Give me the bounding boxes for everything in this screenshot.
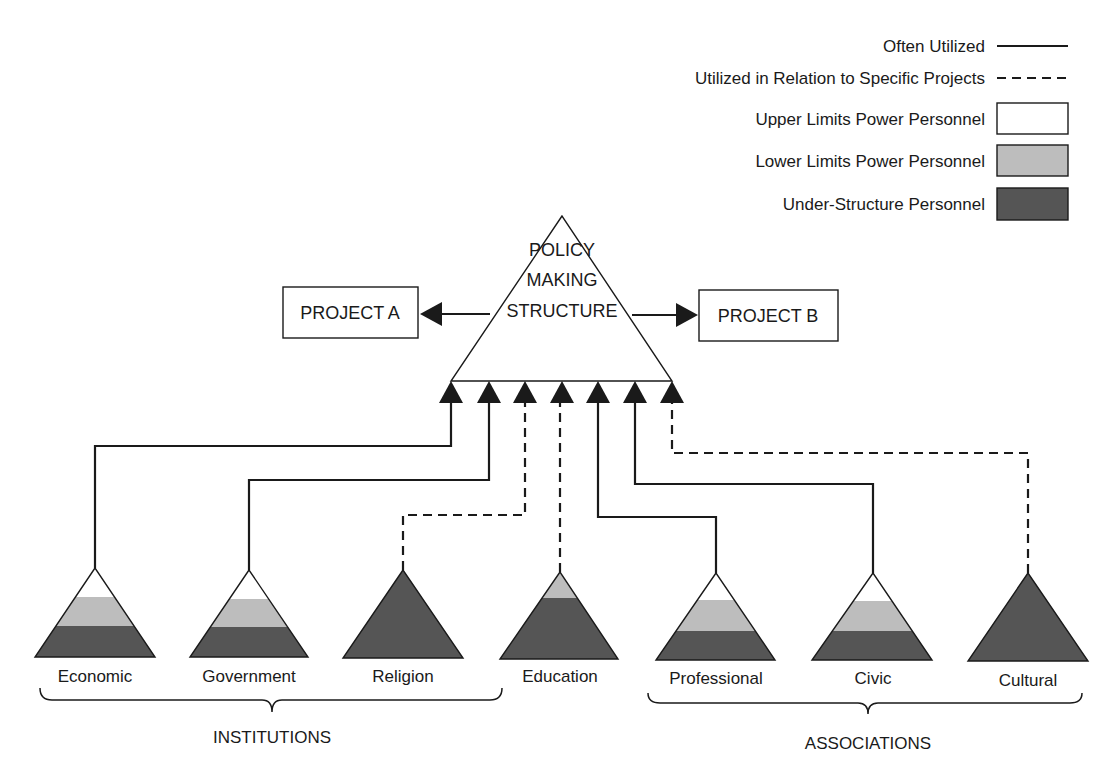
under-structure-layer (962, 560, 1094, 670)
legend-label: Often Utilized (883, 37, 985, 56)
under-structure-layer (806, 631, 938, 669)
connector-professional (598, 398, 716, 573)
arrow-up-icon (586, 381, 610, 403)
project-a-label: PROJECT A (300, 303, 400, 323)
node-cultural: Cultural (962, 560, 1094, 690)
connector-religion (403, 398, 525, 570)
under-structure-layer (338, 560, 468, 668)
brace-institutions (40, 688, 502, 712)
policy-label-line1: POLICY (529, 240, 595, 260)
legend-item-lower-limits: Lower Limits Power Personnel (755, 145, 1068, 176)
legend-label: Utilized in Relation to Specific Project… (695, 69, 985, 88)
policy-label-line3: STRUCTURE (507, 301, 618, 321)
under-structure-swatch (997, 188, 1068, 220)
node-economic: Economic (30, 560, 160, 686)
legend-item-specific-projects: Utilized in Relation to Specific Project… (695, 69, 1068, 88)
lower-limits-layer (650, 600, 780, 631)
under-structure-layer (495, 598, 625, 668)
arrow-left-icon (420, 302, 442, 326)
project-b: PROJECT B (632, 290, 838, 341)
node-label: Government (202, 667, 296, 686)
node-education: Education (495, 560, 625, 686)
group-label-institutions: INSTITUTIONS (213, 728, 331, 747)
node-label: Civic (855, 669, 892, 688)
node-religion: Religion (338, 560, 468, 686)
arrow-right-icon (676, 303, 698, 327)
legend-item-often-utilized: Often Utilized (883, 37, 1068, 56)
legend-item-upper-limits: Upper Limits Power Personnel (755, 103, 1068, 134)
arrow-up-icon (477, 381, 501, 403)
lower-limits-swatch (997, 145, 1068, 176)
legend: Often Utilized Utilized in Relation to S… (695, 37, 1068, 220)
node-government: Government (185, 560, 315, 686)
connector-civic (635, 398, 873, 573)
node-label: Education (522, 667, 598, 686)
policy-making-structure: POLICY MAKING STRUCTURE (451, 216, 672, 381)
brace-associations (648, 693, 1082, 714)
project-a: PROJECT A (283, 287, 490, 338)
power-structure-diagram: Often Utilized Utilized in Relation to S… (0, 0, 1115, 767)
node-label: Economic (58, 667, 133, 686)
under-structure-layer (30, 626, 160, 666)
arrow-up-icon (660, 381, 684, 403)
lower-limits-layer (185, 599, 315, 627)
legend-label: Under-Structure Personnel (783, 195, 985, 214)
node-label: Professional (669, 669, 763, 688)
arrow-up-icon (513, 381, 537, 403)
node-civic: Civic (806, 560, 938, 688)
node-label: Cultural (999, 671, 1058, 690)
lower-limits-layer (30, 597, 160, 626)
connectors (95, 381, 1028, 573)
arrow-up-icon (439, 381, 463, 403)
project-b-label: PROJECT B (718, 306, 819, 326)
arrow-up-icon (550, 381, 574, 403)
policy-label-line2: MAKING (526, 270, 597, 290)
group-label-associations: ASSOCIATIONS (805, 734, 931, 753)
group-associations: ASSOCIATIONS (648, 693, 1082, 753)
connector-government (249, 398, 489, 570)
lower-limits-layer (806, 601, 938, 631)
under-structure-layer (185, 627, 315, 667)
group-institutions: INSTITUTIONS (40, 688, 502, 747)
connector-cultural (672, 398, 1028, 573)
legend-item-under-structure: Under-Structure Personnel (783, 188, 1068, 220)
legend-label: Upper Limits Power Personnel (755, 110, 985, 129)
node-label: Religion (372, 667, 433, 686)
connector-economic (95, 398, 451, 568)
legend-label: Lower Limits Power Personnel (755, 152, 985, 171)
upper-limits-swatch (997, 103, 1068, 134)
node-professional: Professional (650, 560, 780, 688)
under-structure-layer (650, 631, 780, 669)
arrow-up-icon (623, 381, 647, 403)
